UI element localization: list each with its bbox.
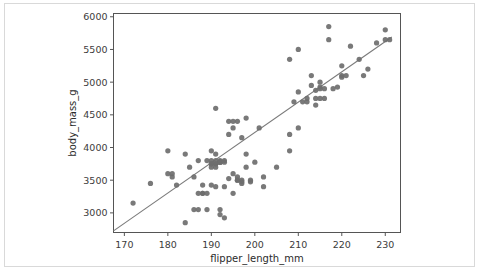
scatter-point: [326, 24, 331, 29]
scatter-point: [174, 182, 179, 187]
x-tick-label: 180: [159, 239, 177, 250]
scatter-point: [213, 184, 218, 189]
scatter-point: [130, 200, 135, 205]
matplotlib-figure: 170180190200210220230 300035004000450050…: [0, 0, 479, 274]
x-tick-label: 170: [115, 239, 133, 250]
scatter-point: [248, 179, 253, 184]
scatter-point: [261, 184, 266, 189]
scatter-point: [296, 125, 301, 130]
scatter-point: [296, 47, 301, 52]
scatter-point: [183, 220, 188, 225]
x-tick-label: 190: [202, 239, 220, 250]
scatter-point: [357, 57, 362, 62]
scatter-point: [274, 165, 279, 170]
scatter-point: [196, 207, 201, 212]
y-tick-label: 6000: [83, 11, 107, 22]
scatter-point: [365, 66, 370, 71]
y-tick-label: 5500: [83, 44, 107, 55]
scatter-point: [291, 99, 296, 104]
y-tick-label: 5000: [83, 77, 107, 88]
scatter-point: [191, 174, 196, 179]
scatter-point: [200, 182, 205, 187]
scatter-point: [317, 80, 322, 85]
scatter-point: [309, 83, 314, 88]
y-tick-label: 3000: [83, 207, 107, 218]
y-axis-ticks: [110, 17, 114, 213]
scatter-point: [222, 160, 227, 165]
y-axis-title: body_mass_g: [67, 89, 79, 156]
scatter-point: [226, 132, 231, 137]
scatter-point: [204, 191, 209, 196]
x-tick-label: 220: [333, 239, 351, 250]
scatter-point: [322, 86, 327, 91]
scatter-point: [239, 135, 244, 140]
scatter-point: [183, 151, 188, 156]
scatter-point: [361, 73, 366, 78]
scatter-point: [244, 165, 249, 170]
scatter-point: [213, 106, 218, 111]
scatter-point: [339, 63, 344, 68]
y-tick-label: 3500: [83, 175, 107, 186]
screenshot-root: 170180190200210220230 300035004000450050…: [0, 0, 479, 274]
scatter-plot-canvas: 170180190200210220230 300035004000450050…: [0, 0, 479, 274]
x-tick-label: 200: [246, 239, 264, 250]
scatter-point: [287, 148, 292, 153]
scatter-point: [196, 158, 201, 163]
scatter-point: [244, 115, 249, 120]
y-tick-label: 4000: [83, 142, 107, 153]
scatter-point: [187, 165, 192, 170]
x-axis-title: flipper_length_mm: [210, 253, 303, 265]
scatter-point: [344, 73, 349, 78]
scatter-point: [309, 73, 314, 78]
x-axis-ticks: [124, 233, 385, 237]
x-tick-label: 210: [289, 239, 307, 250]
scatter-point: [257, 125, 262, 130]
scatter-point: [287, 132, 292, 137]
scatter-point: [261, 174, 266, 179]
axes-frame: [114, 14, 401, 233]
scatter-point: [226, 176, 231, 181]
scatter-point: [322, 96, 327, 101]
scatter-point: [287, 57, 292, 62]
scatter-point: [374, 40, 379, 45]
scatter-point: [222, 184, 227, 189]
scatter-point: [170, 174, 175, 179]
scatter-point: [387, 37, 392, 42]
scatter-point: [348, 44, 353, 49]
scatter-point: [217, 212, 222, 217]
scatter-point: [252, 160, 257, 165]
scatter-point: [217, 207, 222, 212]
scatter-point: [209, 148, 214, 153]
scatter-point: [230, 171, 235, 176]
scatter-point: [239, 181, 244, 186]
scatter-point: [304, 99, 309, 104]
scatter-point: [204, 207, 209, 212]
scatter-point: [383, 27, 388, 32]
x-tick-label: 230: [376, 239, 394, 250]
scatter-point: [296, 89, 301, 94]
scatter-points: [130, 24, 392, 225]
scatter-point: [235, 119, 240, 124]
scatter-point: [244, 151, 249, 156]
scatter-point: [230, 191, 235, 196]
scatter-point: [213, 165, 218, 170]
scatter-point: [335, 84, 340, 89]
y-tick-label: 4500: [83, 109, 107, 120]
scatter-point: [222, 215, 227, 220]
scatter-point: [165, 148, 170, 153]
scatter-point: [213, 151, 218, 156]
scatter-point: [230, 125, 235, 130]
scatter-point: [148, 181, 153, 186]
x-axis-tick-labels: 170180190200210220230: [115, 239, 394, 250]
y-axis-tick-labels: 3000350040004500500055006000: [83, 11, 107, 218]
regression-line: [114, 37, 392, 231]
scatter-point: [313, 102, 318, 107]
scatter-point: [326, 37, 331, 42]
